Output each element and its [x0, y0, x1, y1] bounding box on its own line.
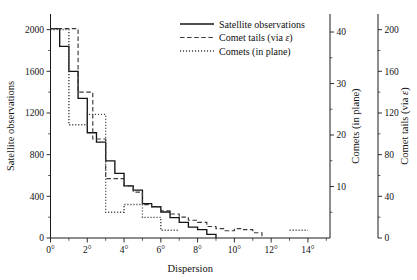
chart-plot-area: 04008001200160020000°2°4°6°8°10°12°14°10… — [0, 0, 417, 280]
y-axis-outer-right-tick-label: 160 — [385, 67, 400, 77]
y-axis-left-tick-label: 400 — [30, 192, 45, 202]
axis-titles-group: DispersionSatellite observationsComets (… — [5, 81, 411, 274]
x-axis-tick-label: 6° — [157, 245, 166, 255]
legend-label-2: Comet tails (via ε) — [219, 32, 293, 44]
y-axis-outer-right-tick-label: 200 — [385, 25, 400, 35]
y-axis-left-title: Satellite observations — [5, 81, 16, 171]
x-axis-tick-label: 2° — [83, 245, 92, 255]
x-axis-tick-label: 12° — [265, 245, 279, 255]
y-axis-left-tick-label: 800 — [30, 150, 45, 160]
x-axis-tick-label: 10° — [228, 245, 242, 255]
series-path-1 — [51, 29, 216, 238]
series-path-3 — [51, 29, 308, 230]
y-axis-outer-right-tick-label: 0 — [385, 233, 390, 243]
y-axis-inner-right-tick-label: 40 — [337, 27, 347, 37]
y-axis-inner-right-tick-label: 30 — [337, 79, 347, 89]
axes-group: 04008001200160020000°2°4°6°8°10°12°14°10… — [25, 14, 399, 255]
y-axis-outer-right-title: Comet tails (via ε) — [399, 87, 411, 165]
y-axis-outer-right-tick-label: 80 — [385, 150, 395, 160]
legend-label-1: Satellite observations — [219, 19, 305, 30]
chart-figure: 04008001200160020000°2°4°6°8°10°12°14°10… — [0, 0, 417, 280]
y-axis-outer-right-tick-label: 40 — [385, 192, 395, 202]
y-axis-inner-right-tick-label: 10 — [337, 182, 347, 192]
y-axis-left-tick-label: 1200 — [25, 108, 44, 118]
x-axis-tick-label: 0° — [46, 245, 55, 255]
legend-label-3: Comets (in plane) — [219, 46, 291, 58]
y-axis-left-tick-label: 2000 — [25, 25, 44, 35]
y-axis-inner-right-tick-label: 20 — [337, 130, 347, 140]
x-axis-tick-label: 8° — [193, 245, 202, 255]
x-axis-tick-label: 14° — [301, 245, 315, 255]
y-axis-left-tick-label: 0 — [39, 233, 44, 243]
data-series-group — [51, 29, 308, 238]
x-axis-title: Dispersion — [168, 263, 214, 274]
y-axis-outer-right-tick-label: 120 — [385, 108, 400, 118]
chart-legend: Satellite observationsComet tails (via ε… — [180, 19, 305, 58]
y-axis-left-tick-label: 1600 — [25, 67, 44, 77]
y-axis-inner-right-title: Comets (in plane) — [350, 88, 362, 164]
x-axis-tick-label: 4° — [120, 245, 129, 255]
